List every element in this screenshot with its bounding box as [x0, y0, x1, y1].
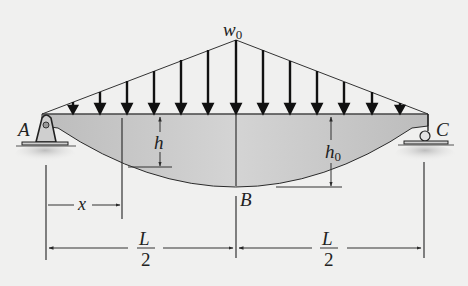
midpoint-b-label: B [240, 189, 252, 210]
support-a-label: A [16, 119, 30, 140]
load-arrows [69, 40, 404, 113]
position-label: x [77, 194, 86, 214]
beam-diagram: w0 A C h h0 B x L 2 L 2 [0, 0, 468, 286]
beam-body [42, 114, 428, 187]
ground-right [395, 145, 455, 163]
load-intensity-label: w0 [223, 19, 242, 42]
half-span-right-den: 2 [324, 249, 334, 270]
depth-label: h [154, 132, 164, 153]
half-span-right-num: L [321, 228, 333, 249]
support-c-label: C [436, 119, 449, 140]
ground-left [15, 145, 75, 163]
pin-icon [43, 122, 49, 128]
half-span-left-num: L [138, 228, 150, 249]
half-span-left-den: 2 [141, 249, 151, 270]
roller-icon [420, 131, 430, 141]
